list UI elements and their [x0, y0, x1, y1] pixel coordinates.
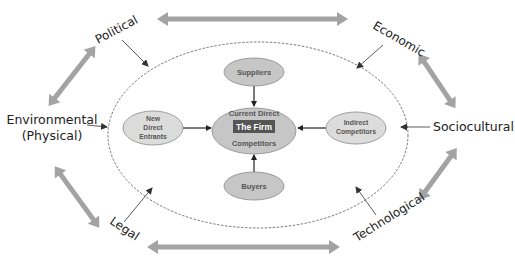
current-direct-label: Current Direct — [229, 109, 280, 118]
arrow-legal-technological — [147, 240, 340, 254]
indirect-label-line2: Competitors — [336, 128, 376, 136]
entrants-label-line1: New — [146, 115, 161, 122]
node-suppliers: Suppliers — [224, 58, 284, 86]
label-environmental-line1: Environmental — [7, 112, 98, 127]
label-sociocultural: Sociocultural — [433, 119, 514, 134]
arrow-political-environmental — [43, 42, 101, 111]
label-environmental-line2: (Physical) — [22, 128, 83, 143]
label-legal: Legal — [107, 214, 142, 244]
entrants-label-line3: Entrants — [139, 133, 167, 140]
arrow-environmental-legal — [49, 162, 105, 232]
label-technological: Technological — [350, 190, 427, 245]
label-political: Political — [93, 13, 140, 47]
pointer-political — [122, 40, 148, 66]
node-indirect-competitors: Indirect Competitors — [326, 112, 386, 144]
indirect-label-line1: Indirect — [344, 119, 369, 126]
arrow-political-economic — [157, 12, 348, 26]
firm-label: The Firm — [236, 122, 272, 132]
pointer-economic — [357, 45, 383, 68]
pointer-legal — [124, 188, 152, 222]
entrants-label-line2: Direct — [143, 124, 163, 131]
node-buyers: Buyers — [224, 172, 284, 200]
pointer-technological — [356, 187, 376, 215]
buyers-label: Buyers — [241, 182, 266, 191]
environment-diagram: Suppliers Buyers New Direct Entrants Ind… — [0, 0, 515, 267]
competitors-label: Competitors — [232, 139, 276, 148]
label-economic: Economic — [371, 18, 428, 59]
suppliers-label: Suppliers — [237, 68, 271, 77]
node-new-direct-entrants: New Direct Entrants — [123, 111, 183, 145]
node-the-firm: Current Direct The Firm Competitors — [212, 108, 296, 154]
